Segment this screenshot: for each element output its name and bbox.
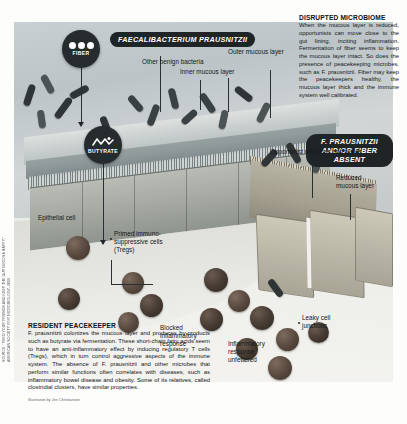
label-primed-tregs: Primed immuno-suppressive cells (Tregs)	[114, 230, 176, 255]
arrow-butyrate-to-treg	[100, 240, 106, 245]
label-other-benign-bacteria: Other benign bacteria	[142, 58, 203, 66]
label-inflammatory-response-unfettered: Inflammatory response unfettered	[228, 340, 272, 365]
immune-cell	[140, 294, 163, 317]
peacekeeper-body: F. prausnitzii colonizes the mucous laye…	[28, 330, 210, 392]
immune-cell	[122, 272, 144, 294]
leader-line-inner-mucous	[228, 78, 229, 112]
leader-line-benign	[200, 80, 201, 110]
figure-root: FIBER BUTYRATE INFLAMMATION INHIBITORS F…	[0, 0, 407, 424]
treg-cell	[66, 236, 90, 260]
leader-line-treg-h	[111, 284, 153, 285]
disrupted-microbiome-block: DISRUPTED MICROBIOME When the mucous lay…	[299, 14, 399, 100]
label-reduced-mucous-layer: Reduced mucous layer	[336, 174, 378, 190]
label-epithelial-cell: Epithelial cell	[38, 214, 75, 222]
disrupted-body: When the mucous layer is reduced, opport…	[299, 22, 399, 100]
butyrate-badge-label: BUTYRATE	[88, 148, 118, 154]
inflammatory-cell	[276, 328, 299, 351]
label-outer-mucous-layer: Outer mucous layer	[228, 48, 284, 56]
immune-cell	[228, 290, 250, 312]
butyrate-molecule-icon	[92, 136, 114, 147]
fiber-badge-label: FIBER	[73, 50, 90, 56]
disrupted-epithelial-cell	[256, 214, 315, 298]
arrow-fiber-to-butyrate	[78, 122, 84, 127]
fiber-molecule-icon	[69, 42, 94, 49]
leader-line-reduced-mucous	[350, 194, 351, 220]
fiber-badge: FIBER	[62, 30, 100, 68]
peacekeeper-heading: RESIDENT PEACEKEEPER	[28, 322, 210, 329]
leader-line-treg	[111, 260, 112, 284]
resident-peacekeeper-block: RESIDENT PEACEKEEPER F. prausnitzii colo…	[28, 322, 210, 392]
disrupted-heading: DISRUPTED MICROBIOME	[299, 14, 399, 21]
leader-line-outer-mucous	[270, 70, 271, 118]
label-opportunist-microbes: Opportunist microbes and toxins	[270, 148, 362, 156]
leader-line-fiber	[81, 68, 82, 126]
pill-faecalibacterium-prausnitzii: FAECALIBACTERIUM PRAUSNITZII	[110, 32, 255, 47]
label-inner-mucous-layer: Inner mucous layer	[180, 68, 234, 76]
inflammatory-cell	[250, 306, 274, 330]
leader-line-butyrate	[103, 164, 104, 244]
immune-cell	[204, 268, 228, 292]
immune-cell	[58, 288, 80, 310]
illustration-credit: Illustration by Jen Christiansen	[28, 398, 80, 402]
disrupted-epithelial-cell	[355, 207, 393, 288]
butyrate-badge: BUTYRATE	[84, 126, 122, 164]
source-credit-vertical: SOURCE: “FEED YOUR FRIENDS AND KEEP THE …	[2, 232, 12, 362]
label-leaky-cell-junctions: Leaky cell junctions	[302, 314, 346, 330]
leader-line-opportunist	[312, 162, 313, 198]
